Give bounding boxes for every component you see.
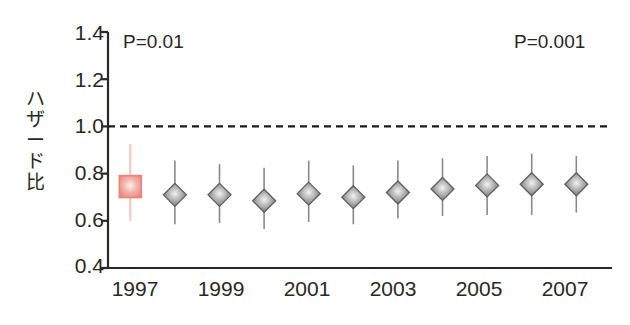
- data-point-2000: [253, 168, 276, 229]
- data-point-2002: [342, 165, 365, 224]
- plot-area: [0, 0, 630, 325]
- data-point-2007: [565, 156, 588, 213]
- data-point-1997: [119, 144, 141, 221]
- data-points-layer: [119, 144, 588, 229]
- data-point-2005: [476, 156, 499, 215]
- data-point-2001: [297, 161, 320, 222]
- data-point-1998: [163, 161, 186, 225]
- data-point-1999: [208, 164, 231, 223]
- hazard-ratio-forest-chart: ハザード比 1.4 1.2 1.0 0.8 0.6 0.4 1997 1999 …: [0, 0, 630, 325]
- data-point-2006: [520, 154, 543, 215]
- axis-lines: [101, 32, 612, 268]
- data-point-2004: [431, 158, 454, 216]
- data-point-2003: [386, 161, 409, 219]
